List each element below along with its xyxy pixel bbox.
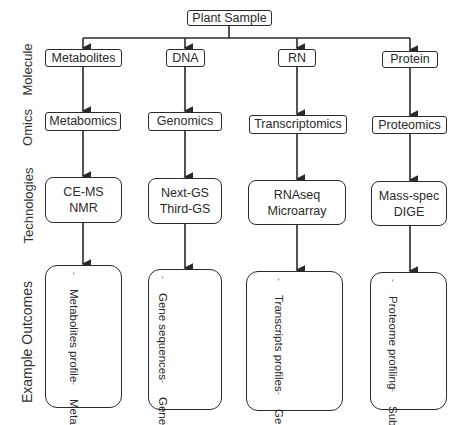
list-bullet: - [272, 392, 285, 395]
omics-node-metabomics: Metabomics [45, 112, 121, 131]
omics-label: Metabomics [49, 114, 116, 129]
outcome-item: -Gene expressions [272, 392, 285, 425]
omics-label: Proteomics [378, 118, 441, 133]
molecule-label: Protein [390, 52, 430, 67]
list-bullet: - [67, 382, 80, 385]
outcome-item: -Gene sequences [156, 276, 169, 380]
outcome-box-transcriptomics: -Transcripts profiles-Gene expressions-N… [246, 271, 343, 411]
molecule-label: RN [288, 51, 306, 66]
tech-item: CE-MS [63, 184, 103, 200]
molecule-label: DNA [172, 51, 198, 66]
outcome-item: -Metabolic Map [67, 382, 80, 425]
list-bullet: - [156, 380, 169, 383]
tech-item: Mass-spec [379, 188, 439, 204]
outcome-list: -Transcripts profiles-Gene expressions-N… [272, 278, 285, 425]
omics-node-transcriptomics: Transcriptomics [249, 115, 347, 134]
outcome-box-metabolomics: -Metabolites profile-Metabolic Map-Hormo… [45, 265, 122, 408]
row-label-omics: Omics [20, 103, 35, 153]
outcome-list: -Metabolites profile-Metabolic Map-Hormo… [67, 272, 80, 425]
omics-node-proteomics: Proteomics [372, 116, 447, 134]
omics-node-genomics: Genomics [148, 112, 222, 131]
list-bullet: - [67, 272, 80, 275]
outcome-item: -Metabolites profile [67, 272, 80, 382]
omics-label: Genomics [157, 114, 213, 129]
outcome-item: -Transcripts profiles [272, 278, 285, 392]
molecule-node-dna: DNA [166, 49, 205, 67]
tech-node-metabolomics: CE-MS NMR [45, 177, 122, 223]
omics-label: Transcriptomics [254, 117, 342, 132]
tech-item: DIGE [394, 204, 425, 220]
outcome-box-genomics: -Gene sequences-Gene structure-Gene anno… [148, 269, 222, 410]
list-bullet: - [272, 278, 285, 281]
tech-item: Next-GS [161, 185, 209, 201]
list-bullet: - [156, 276, 169, 279]
tech-node-genomics: Next-GS Third-GS [148, 178, 222, 224]
molecule-node-rn: RN [278, 49, 316, 67]
list-bullet: - [386, 389, 399, 392]
tech-node-transcriptomics: RNAseq Microarray [248, 180, 346, 225]
outcome-item: -Subcellular localization [386, 389, 399, 425]
outcome-item: -Proteome profiling [386, 279, 399, 389]
row-label-outcomes: Example Outcomes [19, 280, 35, 404]
tech-item: Microarray [267, 203, 326, 219]
list-bullet: - [386, 279, 399, 282]
tech-item: Third-GS [160, 201, 211, 217]
outcome-box-proteomics: -Proteome profiling-Subcellular localiza… [370, 272, 447, 410]
molecule-node-metabolites: Metabolites [45, 49, 122, 67]
tech-node-proteomics: Mass-spec DIGE [371, 181, 447, 226]
outcome-list: -Proteome profiling-Subcellular localiza… [386, 279, 399, 425]
tech-item: RNAseq [274, 187, 321, 203]
outcome-item: -Gene structure [156, 380, 169, 425]
outcome-list: -Gene sequences-Gene structure-Gene anno… [156, 276, 169, 425]
root-label: Plant Sample [192, 11, 266, 26]
row-label-molecule: Molecule [20, 39, 35, 101]
molecule-label: Metabolites [52, 51, 116, 66]
tech-item: NMR [69, 200, 97, 216]
row-label-technologies: Technologies [21, 161, 36, 251]
root-node-plant-sample: Plant Sample [187, 10, 272, 26]
molecule-node-protein: Protein [382, 51, 438, 68]
